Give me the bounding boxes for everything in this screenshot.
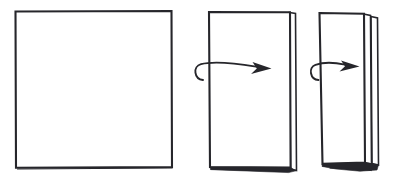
half-fold-front-face <box>209 12 291 168</box>
step-3-quarter-folded-sheet <box>320 13 379 171</box>
square-sheet-face <box>16 11 173 168</box>
paper-folding-diagram <box>0 0 397 183</box>
diagram-canvas <box>0 0 397 183</box>
step-2-half-folded-sheet <box>209 12 297 173</box>
quarter-fold-front-face <box>320 13 366 164</box>
step-1-unfolded-square-sheet <box>16 11 173 169</box>
